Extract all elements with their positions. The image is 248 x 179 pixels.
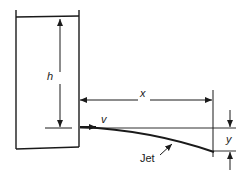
horizontal-distance-dimension xyxy=(80,90,213,157)
jet-leader-arrow xyxy=(160,144,172,155)
water-surface-line xyxy=(16,16,79,17)
head-label: h xyxy=(47,70,53,82)
jet-trajectory xyxy=(80,127,214,152)
tank-bottom xyxy=(16,147,79,149)
vertical-drop-label: y xyxy=(225,133,233,145)
horizontal-distance-label: x xyxy=(139,87,146,99)
jet-label: Jet xyxy=(140,152,155,164)
jet xyxy=(80,127,214,152)
jet-diagram: h x v y Jet xyxy=(0,0,248,179)
velocity-label: v xyxy=(101,113,108,125)
